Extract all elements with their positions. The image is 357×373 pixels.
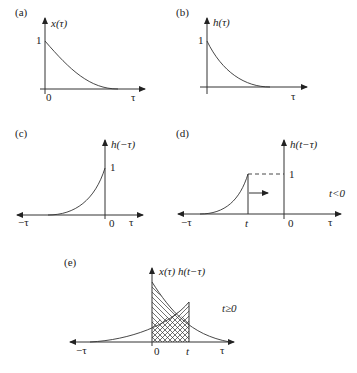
zero-label: 0 (46, 91, 52, 103)
one-label: 1 (198, 34, 204, 46)
h-t-minus-tau-curve (200, 174, 248, 214)
t-label: t (245, 217, 249, 229)
tau-label: τ (328, 216, 333, 228)
one-label: 1 (110, 161, 116, 173)
panel-e-tag: (e) (64, 256, 77, 269)
y-label: h(−τ) (111, 138, 136, 151)
neg-tau-label: −τ (76, 344, 87, 356)
y-label: x(τ) h(t−τ) (158, 265, 205, 278)
y-label: h(τ) (213, 16, 230, 29)
tau-label: τ (220, 344, 225, 356)
panel-a-tag: (a) (15, 6, 28, 19)
h-neg-tau-curve (48, 168, 105, 215)
y-label: h(t−τ) (290, 138, 318, 151)
t-label: t (186, 345, 190, 357)
neg-tau-label: −τ (181, 216, 192, 228)
condition-label: t≥0 (222, 302, 237, 314)
panel-c: (c) h(−τ) 1 0 τ −τ (15, 127, 143, 229)
one-label: 1 (36, 34, 42, 46)
condition-label: t<0 (329, 187, 345, 199)
x-tau-curve (45, 41, 118, 89)
convolution-diagram: (a) x(τ) 1 0 τ (b) h(τ) 1 τ (c) h(−τ) 1 … (0, 0, 357, 373)
tau-label: τ (129, 216, 134, 228)
panel-e: (e) x(τ) h(t−τ) 0 τ −τ t t≥0 (64, 256, 237, 357)
tau-label: τ (291, 90, 296, 102)
panel-c-tag: (c) (15, 127, 28, 140)
zero-label: 0 (288, 217, 294, 229)
one-label: 1 (289, 168, 295, 180)
h-tau-curve (207, 41, 270, 87)
panel-a: (a) x(τ) 1 0 τ (15, 6, 145, 103)
panel-d: (d) h(t−τ) 1 0 τ −τ t t<0 (176, 127, 345, 229)
zero-label: 0 (154, 345, 160, 357)
panel-d-tag: (d) (176, 127, 189, 140)
neg-tau-label: −τ (18, 216, 29, 228)
zero-label: 0 (109, 217, 115, 229)
panel-b: (b) h(τ) 1 τ (176, 6, 307, 102)
tau-label: τ (131, 91, 136, 103)
y-label: x(τ) (50, 17, 67, 30)
panel-b-tag: (b) (176, 6, 189, 19)
